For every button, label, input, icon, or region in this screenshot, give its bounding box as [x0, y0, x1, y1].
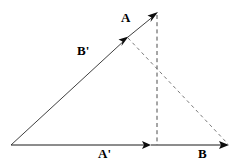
label-vector-a-prime: A' [98, 147, 111, 160]
vector-b-prime-shaft [11, 39, 126, 145]
dashed-construction-group [128, 15, 228, 145]
vector-a [128, 12, 158, 37]
vector-diagram-canvas [0, 0, 240, 168]
vector-b [151, 141, 229, 149]
diagonal-projection-line [128, 38, 228, 144]
vector-b-prime [11, 37, 129, 146]
vector-a-arrowhead [148, 12, 159, 22]
label-vector-b-prime: B' [77, 44, 89, 57]
solid-vectors-group [11, 12, 229, 149]
vector-a-shaft [128, 15, 155, 37]
label-vector-b: B [198, 147, 207, 160]
vector-diagram-figure: A B' A' B [0, 0, 240, 168]
label-vector-a: A [121, 11, 130, 24]
vector-a-prime [11, 141, 151, 149]
